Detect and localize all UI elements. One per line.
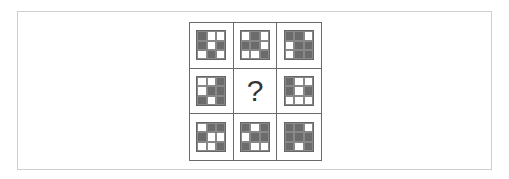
- light-square: [304, 96, 313, 105]
- dark-square: [294, 123, 303, 132]
- dark-square: [250, 132, 259, 141]
- light-square: [260, 31, 269, 40]
- light-square: [260, 41, 269, 50]
- dark-square: [216, 41, 225, 50]
- dark-square: [197, 96, 206, 105]
- light-square: [216, 50, 225, 59]
- light-square: [207, 96, 216, 105]
- puzzle-cell-r1c1: [190, 23, 234, 69]
- dark-square: [241, 41, 250, 50]
- light-square: [197, 86, 206, 95]
- dark-square: [285, 31, 294, 40]
- light-square: [285, 50, 294, 59]
- dark-square: [285, 77, 294, 86]
- light-square: [207, 41, 216, 50]
- light-square: [216, 31, 225, 40]
- puzzle-cell-r3c2: [234, 114, 278, 160]
- light-square: [197, 123, 206, 132]
- dark-square: [285, 142, 294, 151]
- dark-square: [294, 132, 303, 141]
- puzzle-cell-r1c2: [234, 23, 278, 69]
- pattern-3x3: [196, 30, 226, 60]
- light-square: [207, 142, 216, 151]
- pattern-3x3: [284, 122, 314, 152]
- pattern-3x3: [240, 30, 270, 60]
- dark-square: [304, 142, 313, 151]
- light-square: [250, 123, 259, 132]
- dark-square: [260, 132, 269, 141]
- light-square: [241, 50, 250, 59]
- light-square: [216, 132, 225, 141]
- light-square: [285, 41, 294, 50]
- puzzle-cell-missing[interactable]: ?: [234, 69, 278, 115]
- pattern-3x3: [196, 76, 226, 106]
- dark-square: [207, 50, 216, 59]
- dark-square: [216, 123, 225, 132]
- light-square: [304, 31, 313, 40]
- dark-square: [207, 86, 216, 95]
- light-square: [304, 77, 313, 86]
- dark-square: [250, 41, 259, 50]
- dark-square: [304, 86, 313, 95]
- dark-square: [197, 132, 206, 141]
- light-square: [294, 142, 303, 151]
- dark-square: [294, 50, 303, 59]
- dark-square: [197, 31, 206, 40]
- light-square: [294, 96, 303, 105]
- light-square: [304, 123, 313, 132]
- dark-square: [216, 142, 225, 151]
- dark-square: [304, 41, 313, 50]
- dark-square: [294, 31, 303, 40]
- dark-square: [216, 77, 225, 86]
- dark-square: [250, 31, 259, 40]
- puzzle-grid: ?: [189, 22, 322, 161]
- light-square: [241, 132, 250, 141]
- dark-square: [285, 123, 294, 132]
- dark-square: [260, 50, 269, 59]
- pattern-3x3: [196, 122, 226, 152]
- light-square: [260, 142, 269, 151]
- puzzle-cell-r3c3: [277, 114, 321, 160]
- dark-square: [207, 123, 216, 132]
- light-square: [250, 50, 259, 59]
- dark-square: [285, 86, 294, 95]
- light-square: [197, 77, 206, 86]
- dark-square: [260, 123, 269, 132]
- dark-square: [285, 132, 294, 141]
- dark-square: [216, 96, 225, 105]
- light-square: [197, 142, 206, 151]
- dark-square: [197, 41, 206, 50]
- dark-square: [241, 142, 250, 151]
- puzzle-cell-r2c1: [190, 69, 234, 115]
- light-square: [294, 77, 303, 86]
- light-square: [241, 31, 250, 40]
- puzzle-cell-r3c1: [190, 114, 234, 160]
- light-square: [285, 96, 294, 105]
- dark-square: [241, 123, 250, 132]
- dark-square: [304, 132, 313, 141]
- dark-square: [216, 86, 225, 95]
- pattern-3x3: [240, 122, 270, 152]
- light-square: [207, 132, 216, 141]
- dark-square: [294, 41, 303, 50]
- light-square: [250, 142, 259, 151]
- dark-square: [304, 50, 313, 59]
- pattern-3x3: [284, 30, 314, 60]
- puzzle-cell-r2c3: [277, 69, 321, 115]
- light-square: [197, 50, 206, 59]
- question-mark: ?: [247, 76, 264, 106]
- light-square: [294, 86, 303, 95]
- puzzle-cell-r1c3: [277, 23, 321, 69]
- pattern-3x3: [284, 76, 314, 106]
- light-square: [207, 31, 216, 40]
- light-square: [207, 77, 216, 86]
